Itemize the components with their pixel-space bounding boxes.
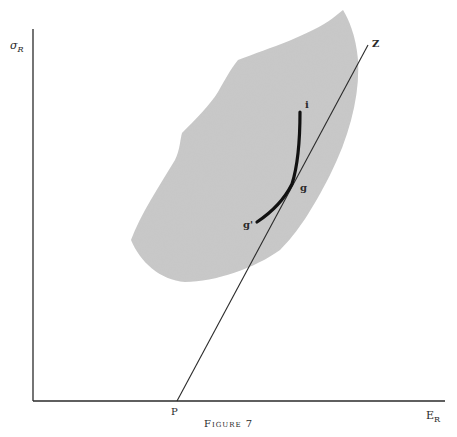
point-label-z: Z: [372, 39, 379, 49]
figure-canvas: [0, 0, 457, 437]
figure-caption: Figure 7: [0, 418, 457, 429]
point-label-i: i: [305, 100, 309, 110]
y-axis-label-sub: R: [18, 45, 24, 54]
point-label-p: P: [171, 407, 178, 417]
point-label-g: g: [300, 183, 307, 193]
point-label-g-prime: g': [243, 220, 253, 230]
y-axis-label: σR: [10, 40, 24, 51]
y-axis-label-main: σ: [10, 39, 18, 52]
feasible-region: [131, 10, 358, 282]
